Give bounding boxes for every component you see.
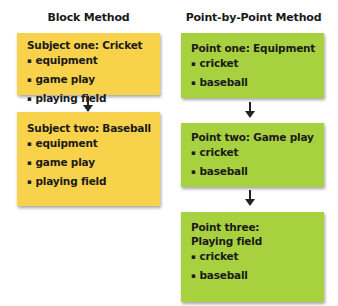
list-item: cricket <box>191 144 316 163</box>
list-item: baseball <box>191 74 316 93</box>
list-item: baseball <box>191 163 316 182</box>
box-title: Point three: Playing field <box>191 220 294 248</box>
box-title: Subject two: Baseball <box>27 121 152 135</box>
list-item: cricket <box>191 248 294 267</box>
block-box-baseball: Subject two: Baseball equipment game pla… <box>17 112 160 206</box>
arrow-down-icon <box>245 102 255 118</box>
list-item: cricket <box>191 55 316 74</box>
point-box-game-play: Point two: Game play cricket baseball <box>181 123 324 187</box>
list-item: equipment <box>27 52 152 71</box>
list-item: equipment <box>27 135 152 154</box>
block-box-cricket: Subject one: Cricket equipment game play… <box>17 33 160 95</box>
list-item: game play <box>27 154 152 173</box>
list-item: game play <box>27 71 152 90</box>
list-item: baseball <box>191 267 294 286</box>
point-box-playing-field: Point three: Playing field cricket baseb… <box>181 212 324 302</box>
box-title: Point two: Game play <box>191 130 316 144</box>
list-item: playing field <box>27 173 152 192</box>
arrow-down-icon <box>245 190 255 206</box>
point-box-equipment: Point one: Equipment cricket baseball <box>181 33 324 98</box>
box-title: Subject one: Cricket <box>27 38 152 52</box>
block-method-title: Block Method <box>17 11 160 24</box>
point-method-title: Point-by-Point Method <box>176 11 331 24</box>
arrow-down-icon <box>83 96 93 112</box>
box-title: Point one: Equipment <box>191 41 316 55</box>
